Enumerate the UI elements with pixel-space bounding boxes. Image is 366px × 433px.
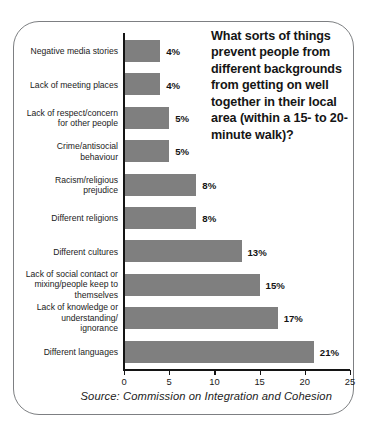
bar	[124, 274, 260, 296]
chart-figure-panel: What sorts of things prevent people from…	[13, 21, 354, 415]
bar	[124, 307, 278, 329]
y-axis-line	[123, 33, 125, 370]
category-label: Lack of knowledge orunderstanding/ignora…	[0, 303, 118, 334]
bar-row: Different religions8%	[14, 202, 355, 235]
bar-row: Negative media stories4%	[14, 35, 355, 68]
bar	[124, 40, 160, 62]
bar	[124, 240, 242, 262]
bar-row: Lack of meeting places4%	[14, 68, 355, 101]
x-axis-tick	[350, 370, 351, 375]
x-axis-tick	[169, 370, 170, 375]
bar-row: Racism/religiousprejudice8%	[14, 168, 355, 201]
category-label: Different cultures	[0, 246, 118, 256]
bar-value-label: 4%	[166, 79, 180, 90]
x-axis-tick	[124, 370, 125, 375]
x-axis-tick-label: 0	[121, 376, 126, 387]
category-label: Crime/antisocialbehaviour	[0, 141, 118, 162]
category-label: Lack of respect/concernfor other people	[0, 108, 118, 129]
bar-row: Lack of respect/concernfor other people5…	[14, 101, 355, 134]
x-axis-tick-label: 15	[254, 376, 264, 387]
bar	[124, 140, 169, 162]
bar-row: Different cultures13%	[14, 235, 355, 268]
bar-value-label: 15%	[266, 279, 285, 290]
source-caption: Source: Commission on Integration and Co…	[14, 390, 332, 402]
x-axis-tick-label: 5	[167, 376, 172, 387]
bar-row: Crime/antisocialbehaviour5%	[14, 135, 355, 168]
x-axis-tick	[214, 370, 215, 375]
bar-row: Lack of social contact ormixing/people k…	[14, 268, 355, 301]
bar-value-label: 5%	[175, 146, 189, 157]
bar-value-label: 8%	[202, 179, 216, 190]
x-axis-tick	[260, 370, 261, 375]
bar-value-label: 21%	[320, 346, 339, 357]
bar	[124, 107, 169, 129]
category-label: Negative media stories	[0, 46, 118, 56]
bar-value-label: 8%	[202, 213, 216, 224]
x-axis-tick-label: 20	[300, 376, 310, 387]
bar-value-label: 17%	[284, 313, 303, 324]
category-label: Racism/religiousprejudice	[0, 174, 118, 195]
category-label: Different religions	[0, 213, 118, 223]
bar-value-label: 4%	[166, 46, 180, 57]
bar-row: Lack of knowledge orunderstanding/ignora…	[14, 302, 355, 335]
category-label: Different languages	[0, 347, 118, 357]
x-axis-line	[123, 369, 350, 371]
bar	[124, 73, 160, 95]
bar	[124, 341, 314, 363]
bar-chart-plot-area: Negative media stories4%Lack of meeting …	[14, 22, 355, 416]
bar-row: Different languages21%	[14, 335, 355, 368]
bar-value-label: 13%	[248, 246, 267, 257]
x-axis-tick-label: 10	[209, 376, 219, 387]
bar	[124, 207, 196, 229]
category-label: Lack of social contact ormixing/people k…	[0, 269, 118, 300]
x-axis-tick-label: 25	[345, 376, 355, 387]
category-label: Lack of meeting places	[0, 79, 118, 89]
x-axis-tick	[305, 370, 306, 375]
bar-value-label: 5%	[175, 112, 189, 123]
bar	[124, 174, 196, 196]
